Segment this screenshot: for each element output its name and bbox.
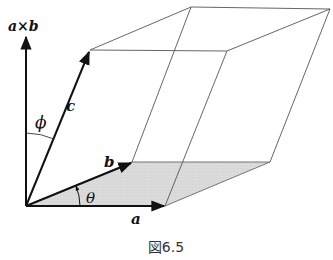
label-b: b (104, 153, 115, 171)
label-a-cross-b: a×b (8, 18, 39, 34)
label-theta: θ (86, 189, 95, 207)
figure-caption: 図6.5 (148, 239, 184, 255)
label-c: c (66, 97, 75, 115)
parallelepiped-diagram: a×b c b a ϕ θ 図6.5 (0, 0, 333, 260)
base-parallelogram (26, 162, 270, 206)
angle-phi-arc (26, 133, 54, 139)
label-phi: ϕ (35, 112, 47, 132)
label-a: a (131, 210, 141, 228)
